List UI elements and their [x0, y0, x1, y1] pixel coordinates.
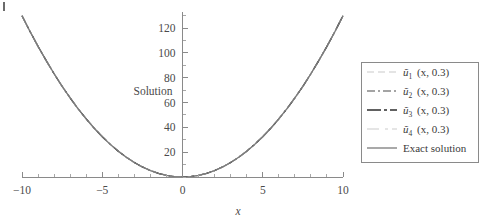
y-tick-label: 40 — [164, 121, 176, 133]
axes-layer: −10−50510 20406080100120 — [13, 12, 349, 196]
legend: ũ1 (x, 0.3)ũ2 (x, 0.3)ũ3 (x, 0.3)ũ4 … — [361, 62, 478, 162]
figure-container: −10−50510 20406080100120 x Solution ũ1 … — [0, 0, 481, 221]
x-axis-ticks — [22, 172, 343, 177]
y-tick-label: 100 — [158, 47, 176, 59]
x-tick-label: 10 — [337, 184, 349, 196]
x-tick-label: −5 — [96, 184, 108, 196]
page-corner-mark — [3, 2, 5, 11]
y-tick-label: 120 — [158, 22, 176, 34]
legend-label-exact: Exact solution — [403, 142, 467, 154]
x-tick-label: 0 — [180, 184, 186, 196]
x-tick-label: 5 — [260, 184, 266, 196]
y-tick-label: 20 — [164, 146, 176, 158]
y-tick-label: 60 — [164, 97, 176, 109]
y-axis-label: Solution — [134, 85, 173, 97]
x-tick-label: −10 — [13, 184, 31, 196]
chart-plot: −10−50510 20406080100120 x Solution ũ1 … — [0, 0, 481, 221]
x-axis-tick-labels: −10−50510 — [13, 184, 349, 196]
y-tick-label: 80 — [164, 72, 176, 84]
y-axis-ticks — [183, 16, 188, 177]
x-axis-label: x — [234, 205, 241, 217]
